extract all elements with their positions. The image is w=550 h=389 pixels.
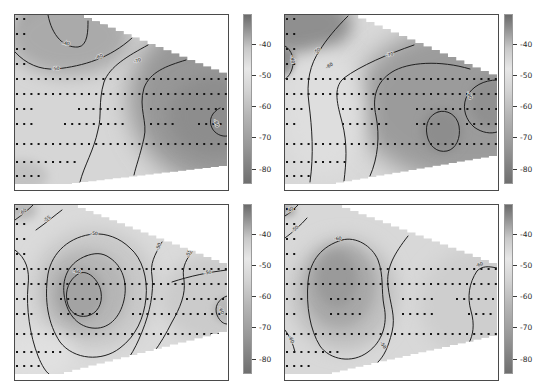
colorbar-gradient [243, 14, 252, 184]
contour-panel-top-right: -40-50-60-70-80 [284, 14, 499, 191]
colorbar-tick [513, 265, 517, 266]
contour-panel-bottom-right: -40-50-60-50-60-60 [284, 204, 499, 381]
colorbar-bottom-right: -40-50-60-70-80 [504, 204, 513, 374]
colorbar-gradient [243, 204, 252, 374]
colorbar-tick-label: -50 [520, 261, 532, 270]
contour-panel-top-left: -40-50-60-70-80 [14, 14, 229, 191]
colorbar-tick [252, 234, 256, 235]
colorbar-bottom-left: -40-50-60-70-80 [243, 204, 252, 374]
colorbar-tick-label: -80 [259, 165, 271, 174]
colorbar-tick-label: -50 [259, 261, 271, 270]
colorbar-tick [252, 44, 256, 45]
contour-label: -60 [73, 269, 81, 274]
wedge-field: -40-50-60-70-80 [284, 14, 499, 191]
colorbar-tick-label: -40 [259, 230, 271, 239]
contour-figure-canvas: -40-50-60-70-80-40-50-60-70-80-40-50-60-… [0, 0, 550, 389]
colorbar-tick-label: -60 [259, 292, 271, 301]
colorbar-tick [252, 359, 256, 360]
contour-label: -50 [52, 66, 60, 72]
colorbar-tick [252, 137, 256, 138]
colorbar-tick [252, 169, 256, 170]
colorbar-tick-label: -70 [520, 323, 532, 332]
wedge-field: -60-55-50-60-50-55-50-60 [14, 204, 229, 381]
colorbar-tick [252, 75, 256, 76]
contour-label: -40 [62, 41, 70, 47]
colorbar-tick-label: -70 [259, 323, 271, 332]
colorbar-tick [252, 327, 256, 328]
colorbar-tick [513, 75, 517, 76]
colorbar-tick-label: -60 [520, 102, 532, 111]
colorbar-tick-label: -80 [520, 165, 532, 174]
colorbar-tick-label: -80 [520, 355, 532, 364]
colorbar-tick-label: -40 [520, 230, 532, 239]
colorbar-tick-label: -50 [520, 71, 532, 80]
colorbar-tick-label: -60 [259, 102, 271, 111]
colorbar-tick-label: -70 [259, 133, 271, 142]
colorbar-tick-label: -40 [259, 40, 271, 49]
colorbar-tick [513, 137, 517, 138]
contour-label: -60 [334, 236, 342, 242]
colorbar-tick-label: -70 [520, 133, 532, 142]
colorbar-gradient [504, 204, 513, 374]
colorbar-tick [513, 234, 517, 235]
wedge-field: -40-50-60-70-80 [14, 14, 229, 191]
colorbar-tick-label: -60 [520, 292, 532, 301]
contour-label: -50 [90, 231, 98, 237]
colorbar-gradient [504, 14, 513, 184]
colorbar-tick-label: -80 [259, 355, 271, 364]
colorbar-tick [513, 359, 517, 360]
colorbar-tick [513, 44, 517, 45]
colorbar-top-right: -40-50-60-70-80 [504, 14, 513, 184]
contour-label: -50 [204, 270, 212, 276]
colorbar-tick [513, 106, 517, 107]
colorbar-tick [513, 169, 517, 170]
contour-panel-bottom-left: -60-55-50-60-50-55-50-60 [14, 204, 229, 381]
wedge-field: -40-50-60-50-60-60 [284, 204, 499, 381]
colorbar-tick [513, 327, 517, 328]
colorbar-top-left: -40-50-60-70-80 [243, 14, 252, 184]
colorbar-tick [252, 296, 256, 297]
colorbar-tick [252, 106, 256, 107]
colorbar-tick-label: -50 [259, 71, 271, 80]
colorbar-tick [513, 296, 517, 297]
colorbar-tick [252, 265, 256, 266]
colorbar-tick-label: -40 [520, 40, 532, 49]
